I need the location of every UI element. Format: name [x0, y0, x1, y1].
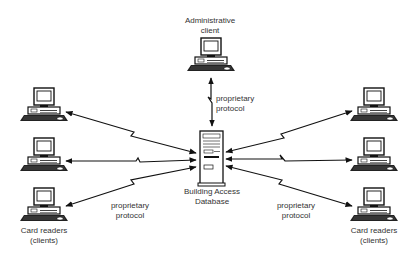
protocol-top-line2: protocol [216, 104, 254, 114]
right-group-label: Card readers (clients) [338, 226, 410, 246]
protocol-label-left: proprietary protocol [98, 201, 162, 221]
card-reader-right-1-icon [350, 88, 398, 121]
card-reader-right-2-icon [350, 138, 398, 171]
connection-left-2-arrow [66, 158, 196, 162]
server-label: Building Access Database [166, 187, 258, 207]
right-group-label-line1: Card readers [338, 226, 410, 236]
left-group-label: Card readers (clients) [8, 226, 80, 246]
protocol-left-line1: proprietary [98, 201, 162, 211]
connection-right-1-arrow [226, 111, 352, 152]
card-reader-right-3-icon [350, 188, 398, 221]
right-group-label-line2: (clients) [338, 236, 410, 246]
left-group-label-line2: (clients) [8, 236, 80, 246]
protocol-label-top: proprietary protocol [216, 94, 254, 114]
server-label-line1: Building Access [166, 187, 258, 197]
card-reader-left-1-icon [20, 88, 68, 121]
protocol-top-line1: proprietary [216, 94, 254, 104]
connection-admin-arrow [208, 78, 212, 126]
server-label-line2: Database [166, 197, 258, 207]
protocol-label-right: proprietary protocol [264, 201, 328, 221]
card-reader-left-3-icon [20, 188, 68, 221]
connection-right-2-arrow [226, 155, 352, 161]
admin-client-computer-icon [187, 38, 235, 71]
admin-client-label-line2: client [168, 26, 252, 36]
admin-client-label: Administrative client [168, 16, 252, 36]
protocol-right-line2: protocol [264, 211, 328, 221]
diagram-canvas [0, 0, 418, 256]
card-reader-left-2-icon [20, 138, 68, 171]
connection-left-1-arrow [66, 112, 196, 153]
admin-client-label-line1: Administrative [168, 16, 252, 26]
left-group-label-line1: Card readers [8, 226, 80, 236]
protocol-left-line2: protocol [98, 211, 162, 221]
protocol-right-line1: proprietary [264, 201, 328, 211]
server-tower-icon [198, 131, 225, 186]
